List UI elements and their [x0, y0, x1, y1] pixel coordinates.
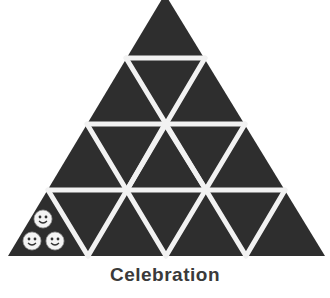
smiley-face-icon [34, 210, 52, 228]
triangle-puzzle-board [0, 0, 330, 262]
smiley-face-icon [23, 232, 41, 250]
smiley-face-icon [46, 232, 64, 250]
puzzle-title: Celebration [0, 264, 330, 286]
